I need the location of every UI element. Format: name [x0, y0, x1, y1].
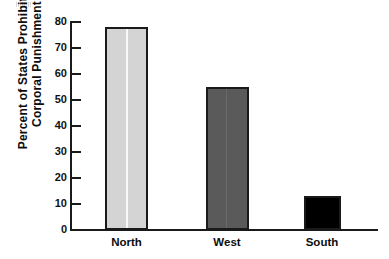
bar-chart-plot: Percent of States Prohibiting Corporal P… [0, 0, 389, 259]
y-axis-tick [72, 47, 81, 49]
y-axis-tick-label: 60 [27, 68, 67, 79]
x-axis-label-south: South [277, 236, 367, 249]
y-axis-tick-label: 80 [27, 16, 67, 27]
y-axis-tick-label: 70 [27, 42, 67, 53]
bar-west [206, 87, 249, 230]
y-axis-tick [72, 151, 81, 153]
y-axis-tick [72, 99, 81, 101]
y-axis-tick-label: 0 [27, 224, 67, 235]
x-axis-label-west: West [182, 236, 272, 249]
y-axis-tick [72, 177, 81, 179]
y-axis-tick [72, 21, 81, 23]
bar-north [105, 27, 148, 230]
y-axis-tick [72, 73, 81, 75]
chart-screenshot: Percent of States Prohibiting Corporal P… [0, 0, 389, 259]
x-axis-label-north: North [82, 236, 172, 249]
y-axis-tick [72, 229, 81, 231]
y-axis-tick-label: 50 [27, 94, 67, 105]
y-axis-tick-label: 40 [27, 120, 67, 131]
y-axis-tick [72, 125, 81, 127]
bar-south [304, 196, 341, 230]
y-axis-tick-label: 30 [27, 146, 67, 157]
y-axis-tick-label: 20 [27, 172, 67, 183]
y-axis-tick-label: 10 [27, 198, 67, 209]
y-axis-tick [72, 203, 81, 205]
